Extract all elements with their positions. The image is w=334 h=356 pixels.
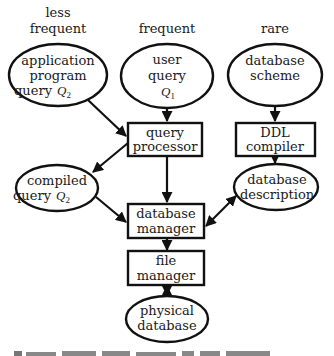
edge-query-processor-to-compiled-query [93, 143, 128, 172]
node-physical-database: physical database [126, 296, 208, 342]
column-header-frequent: frequent [139, 21, 196, 36]
node-label: database [136, 206, 196, 221]
node-label: query [148, 68, 187, 83]
node-database-scheme: database scheme [228, 44, 322, 106]
header-line: less [45, 5, 70, 20]
caption-fragment [136, 352, 176, 356]
node-label: query [14, 83, 53, 98]
node-label: manager [137, 221, 196, 236]
database-system-diagram: less frequent frequent rare application … [0, 0, 334, 356]
node-label: query [146, 125, 185, 140]
column-header-rare: rare [261, 21, 289, 36]
node-label: database [245, 53, 305, 68]
header-line: frequent [139, 21, 196, 36]
header-line: frequent [30, 21, 87, 36]
caption-fragment [62, 351, 96, 356]
node-label: user [153, 52, 183, 67]
header-line: rare [261, 21, 289, 36]
node-file-manager: file manager [128, 251, 204, 285]
edge-app-query-to-query-processor [88, 100, 126, 136]
node-label: program [30, 68, 87, 83]
caption-fragment [182, 351, 194, 356]
node-label: query [13, 188, 52, 203]
node-label: scheme [250, 68, 300, 83]
node-query-processor: query processor [128, 123, 202, 156]
node-label: compiler [246, 139, 305, 154]
node-database-description: database description [234, 164, 318, 210]
edge-db-manager-db-description-bidirectional [206, 196, 236, 226]
edge-compiled-query-to-db-manager [96, 197, 126, 222]
caption-fragment [226, 351, 270, 356]
node-label: application [21, 53, 95, 68]
node-compiled-query: compiled query Q2 [13, 165, 98, 211]
caption-fragment [14, 351, 22, 356]
node-user-query: user query Q1 [121, 44, 213, 108]
caption-fragment [26, 352, 56, 356]
node-label: DDL [260, 125, 290, 140]
node-label: database [247, 172, 307, 187]
node-label: file [156, 253, 177, 268]
node-label: manager [137, 268, 196, 283]
node-label: compiled [27, 173, 87, 188]
caption-fragment [200, 351, 220, 356]
node-label: physical [140, 303, 194, 318]
node-database-manager: database manager [128, 204, 204, 238]
column-header-less-frequent: less frequent [30, 5, 87, 36]
node-label: database [137, 318, 197, 333]
node-label: processor [133, 139, 199, 154]
node-application-program-query: application program query Q2 [9, 44, 107, 106]
figure-caption-cutoff [14, 351, 270, 356]
node-label: description [240, 187, 315, 202]
node-ddl-compiler: DDL compiler [236, 123, 315, 156]
caption-fragment [102, 351, 130, 356]
